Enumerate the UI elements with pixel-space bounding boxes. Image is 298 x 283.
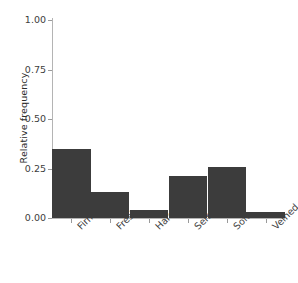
y-axis-tick-label: 0.50 — [22, 114, 46, 124]
y-axis-tick-label: 0.00 — [22, 213, 46, 223]
x-axis-tick-label: Fresh — [114, 224, 122, 232]
x-axis-tick-label: Veined — [270, 224, 278, 232]
bar — [169, 176, 207, 218]
x-axis-tick-mark — [227, 219, 228, 223]
x-axis-tick-mark — [188, 219, 189, 223]
y-axis-tick-label: 0.75 — [22, 65, 46, 75]
bar — [52, 149, 90, 218]
y-axis-tick-label: 1.00 — [22, 15, 46, 25]
y-axis-tick-label: 0.25 — [22, 164, 46, 174]
x-axis-tick-mark — [71, 219, 72, 223]
x-axis-tick-label: Hard — [153, 224, 161, 232]
x-axis-tick-labels: FirmFreshHardSemisoftSoftVeined — [52, 224, 298, 283]
x-axis-tick-label: Semisoft — [192, 224, 200, 232]
bar-chart: Relative frequency 0.000.250.500.751.00 … — [0, 0, 298, 283]
x-axis-tick-mark — [149, 219, 150, 223]
y-axis-tick-labels: 0.000.250.500.751.00 — [22, 0, 46, 283]
x-axis-tick-label: Firm — [75, 224, 83, 232]
plot-area — [52, 18, 285, 218]
x-axis-tick-mark — [110, 219, 111, 223]
x-axis-tick-label: Soft — [231, 224, 239, 232]
x-axis-tick-mark — [266, 219, 267, 223]
